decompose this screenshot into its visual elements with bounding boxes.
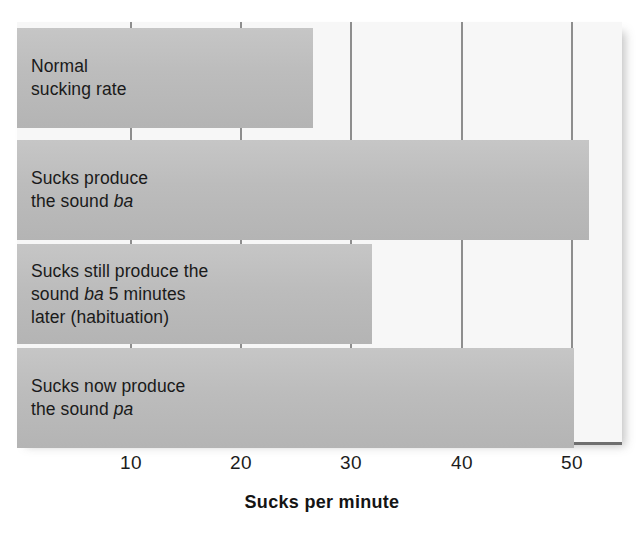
bar-chart-figure: Normal sucking rate Sucks produce the so… [0,0,644,542]
bar-row: Normal sucking rate [17,28,622,128]
plot-area: Normal sucking rate Sucks produce the so… [17,22,622,442]
x-tick-label-20: 20 [230,452,252,474]
bar-label: Sucks still produce the sound ba 5 minut… [31,260,208,329]
bar-label: Sucks produce the sound ba [31,167,148,213]
x-tick-label-30: 30 [340,452,362,474]
x-tick-label-10: 10 [120,452,142,474]
bar-row: Sucks produce the sound ba [17,140,622,240]
italic-syllable: pa [114,399,134,419]
italic-syllable: ba [114,191,134,211]
bar-label: Sucks now produce the sound pa [31,375,185,421]
x-axis-title: Sucks per minute [0,492,644,513]
bar-row: Sucks still produce the sound ba 5 minut… [17,244,622,344]
bar-row: Sucks now produce the sound pa [17,348,622,448]
x-tick-label-40: 40 [451,452,473,474]
italic-syllable: ba [84,284,104,304]
x-tick-label-50: 50 [561,452,583,474]
bar-label: Normal sucking rate [31,55,127,101]
